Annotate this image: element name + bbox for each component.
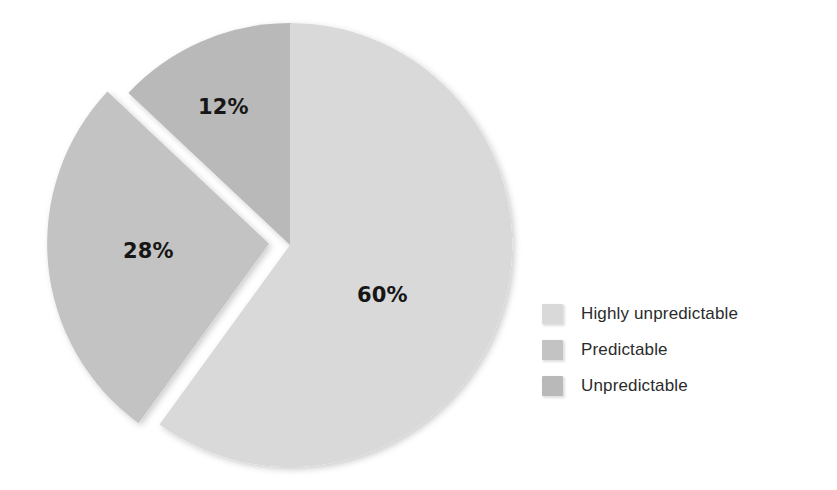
legend-item-unpredictable[interactable]: Unpredictable xyxy=(542,368,832,404)
legend-label-predictable: Predictable xyxy=(581,340,668,360)
legend-item-predictable[interactable]: Predictable xyxy=(542,332,832,368)
legend-swatch-unpredictable xyxy=(542,376,563,396)
slice-value-label-unpredictable: 12% xyxy=(198,95,249,119)
legend-label-unpredictable: Unpredictable xyxy=(581,376,688,396)
legend-item-highly-unpredictable[interactable]: Highly unpredictable xyxy=(542,296,832,332)
pie-figure: 60% 28% 12% xyxy=(0,0,560,490)
legend-swatch-highly-unpredictable xyxy=(542,304,563,324)
pie-svg xyxy=(0,0,560,490)
legend-swatch-predictable xyxy=(542,340,563,360)
legend-label-highly-unpredictable: Highly unpredictable xyxy=(581,304,738,324)
slice-value-label-highly-unpredictable: 60% xyxy=(357,283,408,307)
pie-chart: 60% 28% 12% Highly unpredictable Predict… xyxy=(0,0,837,490)
slice-value-label-predictable: 28% xyxy=(123,239,174,263)
chart-legend: Highly unpredictable Predictable Unpredi… xyxy=(542,296,832,404)
